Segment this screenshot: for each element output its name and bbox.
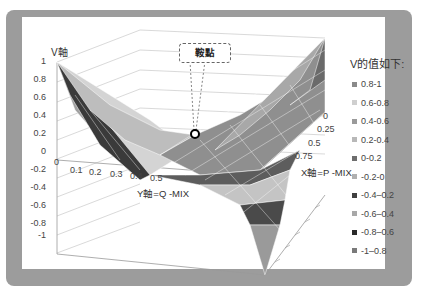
legend-item: -0.2-0 [350, 168, 404, 187]
floor-front-edge [57, 254, 265, 275]
v-axis-title: V軸 [51, 44, 68, 59]
legend-label: -0.2-0 [361, 172, 385, 182]
z-tick: -0.6 [24, 200, 46, 210]
legend-swatch [352, 137, 357, 142]
z-tick: 0.2 [24, 128, 46, 138]
z-tick: 0.8 [24, 74, 46, 84]
legend: V的值如下: 0.8-1 0.6-0.8 0.4-0.6 0.2-0.4 0-0… [350, 55, 404, 260]
legend-swatch [352, 100, 357, 105]
x-tick: 0 [323, 111, 328, 121]
x-tick: 0.75 [295, 151, 313, 161]
legend-item: 0.4-0.6 [350, 112, 404, 131]
legend-item: -0.4–0.2 [350, 186, 404, 205]
legend-item: 0-0.2 [350, 149, 404, 168]
legend-swatch [352, 248, 357, 253]
legend-label: 0.8-1 [361, 79, 382, 89]
x-axis-title: X軸=P -MIX [301, 165, 352, 179]
legend-item: -0.6–0.4 [350, 205, 404, 224]
legend-label: 0.4-0.6 [361, 116, 389, 126]
y-tick: 0.5 [150, 173, 163, 183]
y-axis-title: Y軸=Q -MIX [137, 186, 189, 200]
legend-swatch [352, 82, 357, 87]
legend-item: -0.8–0.6 [350, 223, 404, 242]
legend-label: -0.6–0.4 [361, 209, 394, 219]
callout-pointer [190, 61, 205, 130]
legend-swatch [352, 119, 357, 124]
legend-label: -0.8–0.6 [361, 227, 394, 237]
z-tick: 0 [24, 146, 46, 156]
z-tick: 1 [24, 56, 46, 66]
legend-label: -1–0.8 [361, 246, 387, 256]
legend-label: -0.4–0.2 [361, 190, 394, 200]
z-tick: -0.4 [24, 182, 46, 192]
legend-swatch [352, 193, 357, 198]
legend-swatch [352, 211, 357, 216]
legend-label: 0.2-0.4 [361, 135, 389, 145]
legend-swatch [352, 230, 357, 235]
x-tick: 0.5 [308, 138, 321, 148]
z-tick: -1 [24, 230, 46, 240]
legend-label: 0.6-0.8 [361, 98, 389, 108]
legend-swatch [352, 156, 357, 161]
legend-title: V的值如下: [350, 55, 404, 71]
z-tick: 0.6 [24, 92, 46, 102]
y-tick: 0.1 [70, 165, 83, 175]
legend-item: 0.6-0.8 [350, 94, 404, 113]
x-tick: 0.25 [317, 124, 335, 134]
y-tick: 0.2 [89, 167, 102, 177]
legend-item: -1–0.8 [350, 242, 404, 261]
legend-swatch [352, 174, 357, 179]
y-tick: 0 [54, 157, 59, 167]
legend-item: 0.2-0.4 [350, 131, 404, 150]
z-tick: -0.8 [24, 218, 46, 228]
z-tick: 0.4 [24, 110, 46, 120]
legend-item: 0.8-1 [350, 75, 404, 94]
z-tick: -0.2 [24, 164, 46, 174]
legend-label: 0-0.2 [361, 153, 382, 163]
saddle-point-callout: 鞍點 [179, 43, 231, 63]
saddle-point-marker [191, 130, 199, 138]
y-tick: 0.3 [110, 169, 123, 179]
y-tick: 0.4 [130, 171, 143, 181]
